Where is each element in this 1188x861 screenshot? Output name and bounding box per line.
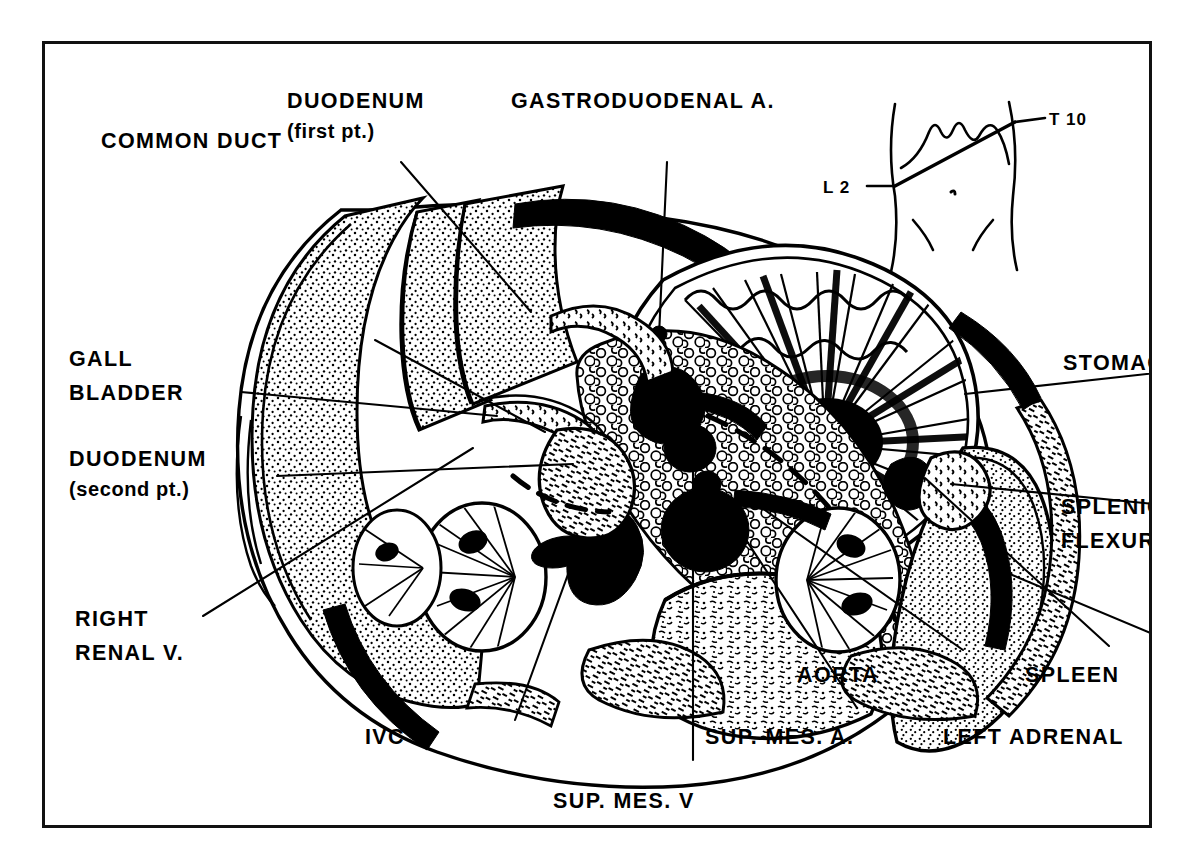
label-splenic-flexure-line2: FLEXURE — [1061, 529, 1149, 553]
label-duodenum-second-line1: DUODENUM — [69, 447, 207, 471]
label-gastroduodenal-artery: GASTRODUODENAL A. — [511, 89, 775, 113]
label-spleen: SPLEEN — [1025, 663, 1119, 687]
label-gall-bladder-line1: GALL — [69, 347, 133, 371]
label-right-renal-vein-line1: RIGHT — [75, 607, 149, 631]
label-sup-mes-artery: SUP. MES. A. — [705, 725, 854, 749]
inset-level-lower: L 2 — [823, 178, 850, 197]
label-splenic-flexure-line1: SPLENIC — [1061, 495, 1149, 519]
figure-page: T 10 L 2 DUODENUM (first pt.) GASTRODUOD… — [0, 0, 1188, 861]
label-ivc: IVC — [365, 725, 405, 749]
label-stomach: STOMACH — [1063, 351, 1149, 375]
label-duodenum-first-line2: (first pt.) — [287, 120, 375, 142]
cross-section-illustration: T 10 L 2 DUODENUM (first pt.) GASTRODUOD… — [45, 44, 1149, 825]
torso-inset: T 10 L 2 — [823, 102, 1087, 272]
label-sup-mes-vein: SUP. MES. V — [553, 789, 695, 813]
label-duodenum-second-line2: (second pt.) — [69, 478, 190, 500]
label-right-renal-vein-line2: RENAL V. — [75, 641, 184, 665]
inset-level-upper: T 10 — [1049, 110, 1087, 129]
label-left-adrenal: LEFT ADRENAL — [943, 725, 1124, 749]
label-common-duct: COMMON DUCT — [101, 129, 282, 153]
label-aorta: AORTA — [797, 663, 879, 687]
label-duodenum-first-line1: DUODENUM — [287, 89, 425, 113]
figure-frame: T 10 L 2 DUODENUM (first pt.) GASTRODUOD… — [42, 41, 1152, 828]
label-gall-bladder-line2: BLADDER — [69, 381, 184, 405]
